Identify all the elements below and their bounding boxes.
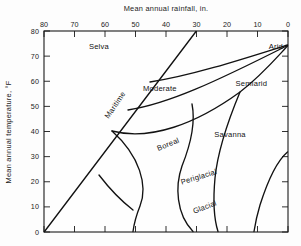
y-tick-label: 10: [31, 202, 39, 211]
x-tick-label: 50: [131, 20, 139, 29]
x-tick-label: 70: [70, 20, 78, 29]
x-tick-label: 20: [223, 20, 231, 29]
x-tick-label: 60: [101, 20, 109, 29]
region-label-moderate: Moderate: [143, 84, 177, 93]
x-tick-label: 0: [286, 20, 290, 29]
region-label-semiarid: Semiarid: [236, 79, 268, 88]
y-tick-label: 20: [31, 177, 39, 186]
region-label-savanna: Savanna: [214, 130, 246, 139]
x-tick-label: 30: [192, 20, 200, 29]
y-tick-label: 0: [35, 228, 39, 237]
x-axis-tick-labels: 80706050403020100: [40, 20, 290, 29]
plot-background: [44, 31, 288, 232]
morphogenetic-regions-figure: Mean annual rainfall, in. Mean annual te…: [0, 0, 301, 246]
y-tick-label: 40: [31, 127, 39, 136]
y-axis-tick-labels: 01020304050607080: [31, 27, 39, 237]
y-tick-label: 30: [31, 152, 39, 161]
y-axis-title: Mean annual temperature, °F: [4, 80, 13, 183]
climate-regions-chart: Mean annual rainfall, in. Mean annual te…: [0, 0, 301, 246]
y-tick-label: 50: [31, 102, 39, 111]
region-label-selva: Selva: [89, 42, 110, 51]
x-axis-title: Mean annual rainfall, in.: [124, 4, 209, 13]
x-tick-label: 40: [162, 20, 170, 29]
x-tick-label: 80: [40, 20, 48, 29]
region-label-arid: Arid: [269, 42, 283, 51]
y-tick-label: 70: [31, 52, 39, 61]
y-tick-label: 60: [31, 77, 39, 86]
x-tick-label: 10: [253, 20, 261, 29]
y-tick-label: 80: [31, 27, 39, 36]
